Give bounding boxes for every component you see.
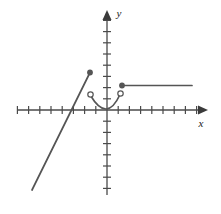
y-axis-arrowhead <box>103 10 112 20</box>
x-axis-arrowhead <box>198 106 208 115</box>
open-dot-parabola-left <box>88 92 93 97</box>
closed-dot-linear-end <box>87 70 93 76</box>
curve-parabola-branch <box>91 95 121 110</box>
x-axis-label: x <box>198 117 204 129</box>
open-dot-parabola-right <box>118 91 123 96</box>
coordinate-plane: x y <box>0 0 221 214</box>
closed-dot-ray-start <box>119 83 125 89</box>
curve-linear-branch <box>32 73 90 191</box>
graph-figure: x y <box>0 0 221 214</box>
y-axis-label: y <box>116 7 122 19</box>
